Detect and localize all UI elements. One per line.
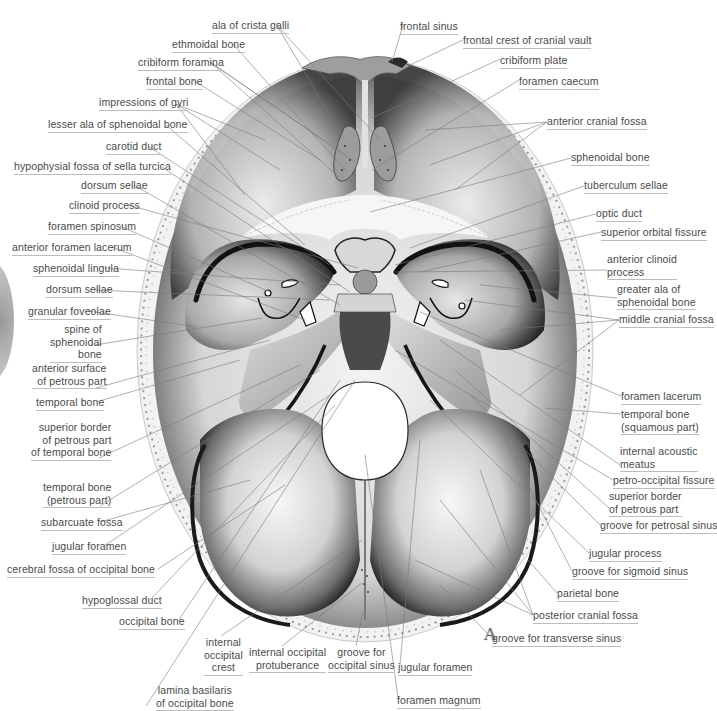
label-internal-occipital-crest: internaloccipitalcrest xyxy=(204,636,243,676)
label-lesser-ala-of-sphenoidal-bone: lesser ala of sphenoidal bone xyxy=(48,118,188,133)
label-sphenoidal-bone: sphenoidal bone xyxy=(571,151,650,166)
label-internal-occipital-protuberance: internal occipitalprotuberance xyxy=(249,646,326,673)
label-frontal-crest-of-cranial-vault: frontal crest of cranial vault xyxy=(463,34,591,49)
label-foramen-lacerum: foramen lacerum xyxy=(621,390,701,405)
label-hypophysial-fossa: hypophysial fossa of sella turcica xyxy=(14,160,171,175)
label-impressions-of-gyri: impressions of gyri xyxy=(99,96,188,111)
label-anterior-foramen-lacerum: anterior foramen lacerum xyxy=(12,241,132,256)
label-dorsum-sellae-2: dorsum sellae xyxy=(46,283,113,298)
label-greater-ala-of-sphenoidal-bone: greater ala ofsphenoidal bone xyxy=(617,283,696,310)
label-anterior-surface-of-petrous-part: anterior surfaceof petrous part xyxy=(32,362,107,389)
label-clinoid-process: clinoid process xyxy=(69,199,140,214)
label-petro-occipital-fissure: petro-occipital fissure xyxy=(613,474,715,489)
label-dorsum-sellae-1: dorsum sellae xyxy=(81,179,148,194)
label-internal-acoustic-meatus: internal acousticmeatus xyxy=(620,445,698,472)
label-jugular-process: jugular process xyxy=(589,547,662,562)
label-superior-border-of-petrous-part-of-temporal-bone: superior borderof petrous partof tempora… xyxy=(31,421,111,461)
label-anterior-clinoid-process: anterior clinoidprocess xyxy=(607,253,677,280)
label-groove-for-sigmoid-sinus: groove for sigmoid sinus xyxy=(572,565,688,580)
label-cerebral-fossa-of-occipital-bone: cerebral fossa of occipital bone xyxy=(7,563,155,578)
label-superior-orbital-fissure: superior orbital fissure xyxy=(601,226,707,241)
label-occipital-bone: occipital bone xyxy=(119,615,185,630)
label-superior-border-of-petrous-part: superior borderof petrous part xyxy=(609,490,682,517)
label-anterior-cranial-fossa: anterior cranial fossa xyxy=(547,115,647,130)
label-sphenoidal-lingula: sphenoidal lingula xyxy=(33,262,119,277)
label-tuberculum-sellae: tuberculum sellae xyxy=(584,179,668,194)
label-ala-of-crista-galli: ala of crista galli xyxy=(212,19,289,34)
label-frontal-bone: frontal bone xyxy=(146,75,203,90)
label-temporal-bone-petrous-part: temporal bone(petrous part) xyxy=(43,481,111,508)
label-cribiform-plate: cribiform plate xyxy=(500,54,567,69)
label-frontal-sinus: frontal sinus xyxy=(400,20,458,35)
label-lamina-basilaris-of-occipital-bone: lamina basilarisof occipital bone xyxy=(156,684,234,711)
label-temporal-bone-squamous-part: temporal bone(squamous part) xyxy=(621,408,699,435)
label-groove-for-petrosal-sinus: groove for petrosal sinus xyxy=(600,519,717,534)
label-hypoglossal-duct: hypoglossal duct xyxy=(82,594,162,609)
label-cribiform-foramina: cribiform foramina xyxy=(138,56,224,71)
label-spine-of-sphenoidal-bone: spine ofsphenoidalbone xyxy=(50,323,102,363)
label-middle-cranial-fossa: middle cranial fossa xyxy=(619,313,714,328)
label-granular-foveolae: granular foveolae xyxy=(28,305,111,320)
label-jugular-foramen-left: jugular foramen xyxy=(52,540,126,555)
label-groove-for-occipital-sinus: groove foroccipital sinus xyxy=(328,646,395,673)
label-groove-for-transverse-sinus: groove for transverse sinus xyxy=(492,632,621,647)
label-foramen-spinosum: foramen spinosum xyxy=(48,220,136,235)
label-temporal-bone: temporal bone xyxy=(36,396,104,411)
label-foramen-caecum: foramen caecum xyxy=(519,75,599,90)
label-posterior-cranial-fossa: posterior cranial fossa xyxy=(533,609,638,624)
label-foramen-magnum: foramen magnum xyxy=(397,694,481,709)
label-subarcuate-fossa: subarcuate fossa xyxy=(41,516,123,531)
label-carotid-duct: carotid duct xyxy=(106,140,161,155)
label-ethmoidal-bone: ethmoidal bone xyxy=(172,38,245,53)
label-jugular-foramen-bottom: jugular foramen xyxy=(398,661,472,676)
label-optic-duct: optic duct xyxy=(596,207,642,222)
label-parietal-bone: parietal bone xyxy=(557,587,619,602)
